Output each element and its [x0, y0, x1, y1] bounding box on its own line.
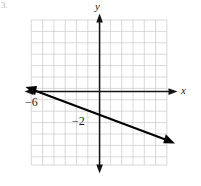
graph-figure: 3.: [0, 0, 201, 186]
y-axis-label: y: [95, 1, 100, 12]
y-intercept-label: −2: [72, 115, 85, 127]
x-axis: [25, 88, 178, 95]
y-axis: [96, 14, 103, 174]
x-intercept-label: −6: [25, 96, 38, 108]
coordinate-plane-svg: [0, 0, 201, 186]
x-axis-label: x: [181, 85, 186, 96]
